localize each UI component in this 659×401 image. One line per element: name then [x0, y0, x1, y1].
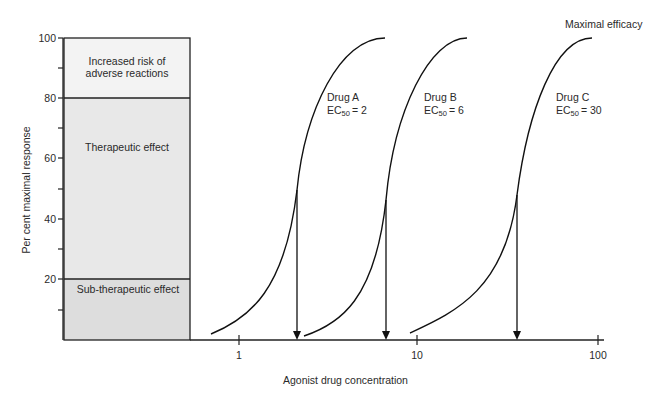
- ec50-arrows: [297, 190, 517, 332]
- drug-a-name: Drug A: [327, 91, 359, 103]
- x-tick-1: 1: [236, 349, 242, 361]
- curve-drug-a: [211, 38, 385, 334]
- x-tick-10: 10: [411, 349, 423, 361]
- maximal-efficacy-label: Maximal efficacy: [565, 18, 643, 30]
- arrowheads: [293, 331, 521, 340]
- y-tick-20: 20: [44, 273, 56, 285]
- dose-response-curves: [211, 38, 592, 336]
- drug-b-ec50: EC50= 6: [424, 104, 464, 118]
- y-tick-80: 80: [44, 92, 56, 104]
- dose-response-chart: Increased risk of adverse reactions Ther…: [0, 0, 659, 401]
- y-axis-ticks: [58, 38, 63, 310]
- y-axis-label: Per cent maximal response: [20, 126, 32, 253]
- zone-adverse-label-1: Increased risk of: [88, 55, 165, 67]
- y-tick-100: 100: [38, 32, 56, 44]
- arrowhead-c: [513, 331, 521, 340]
- arrowhead-a: [293, 331, 301, 340]
- zone-subtherapeutic-label: Sub-therapeutic effect: [77, 283, 180, 295]
- x-axis-label: Agonist drug concentration: [283, 374, 408, 386]
- curve-drug-c: [410, 38, 592, 333]
- drug-c-ec50: EC50= 30: [556, 104, 602, 118]
- drug-a-ec50: EC50= 2: [327, 104, 367, 118]
- x-tick-100: 100: [589, 349, 607, 361]
- zone-therapeutic: [64, 98, 190, 279]
- zone-therapeutic-label: Therapeutic effect: [85, 141, 169, 153]
- drug-b-name: Drug B: [424, 91, 457, 103]
- zone-adverse-label-2: adverse reactions: [86, 67, 169, 79]
- y-tick-60: 60: [44, 152, 56, 164]
- arrowhead-b: [382, 331, 390, 340]
- drug-c-name: Drug C: [556, 91, 590, 103]
- y-tick-40: 40: [44, 213, 56, 225]
